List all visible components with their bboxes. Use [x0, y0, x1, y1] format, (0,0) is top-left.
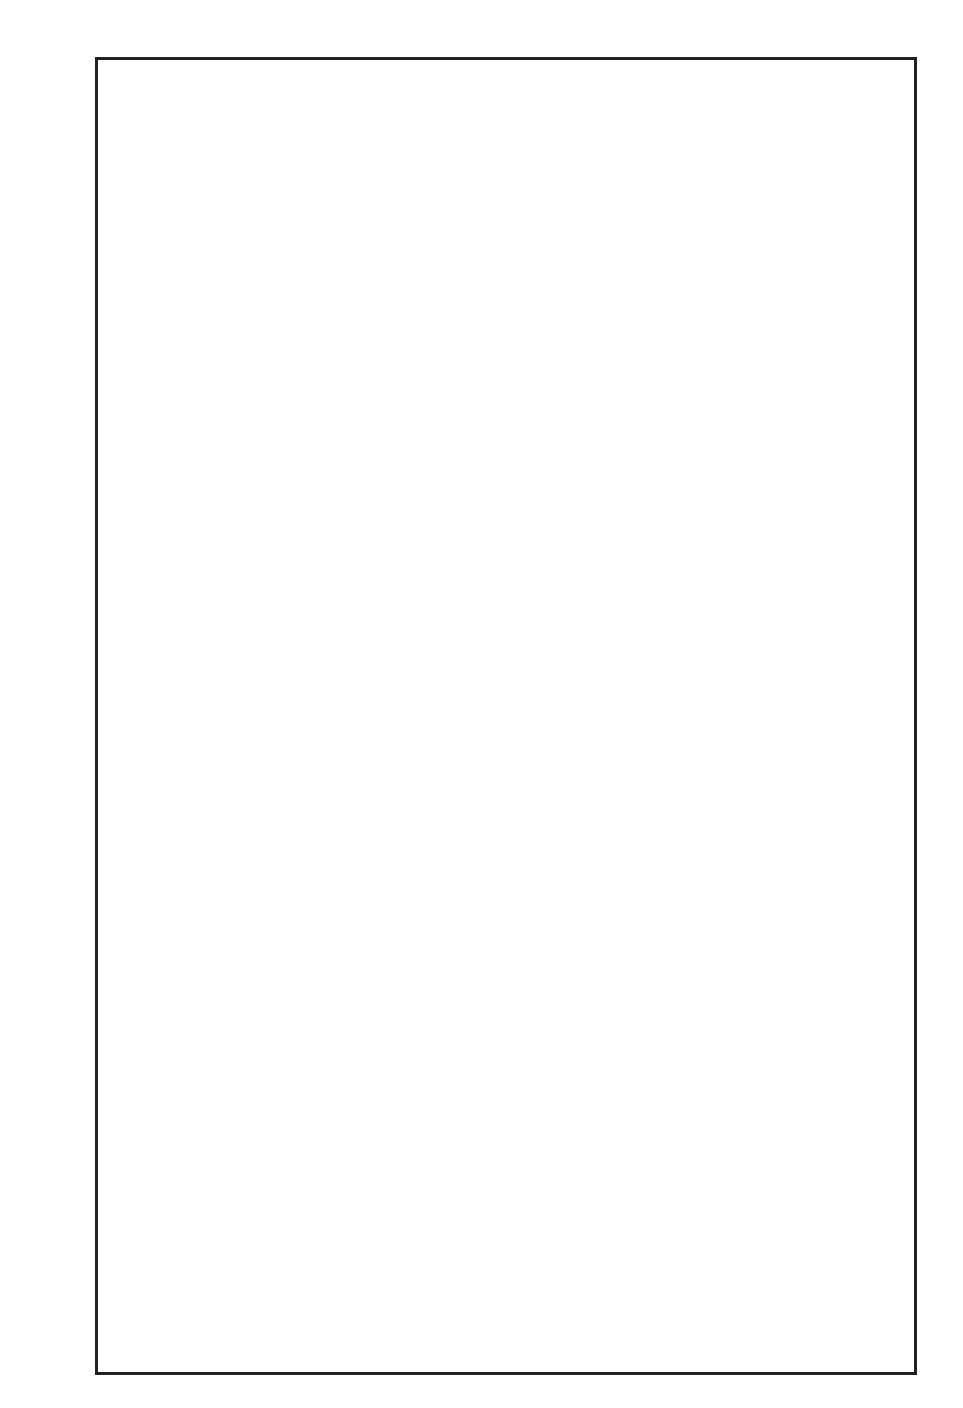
chart-frame: [95, 57, 917, 1375]
